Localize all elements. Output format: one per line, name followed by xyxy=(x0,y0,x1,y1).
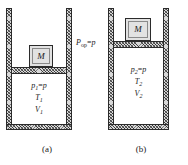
temperature-state-b: T2 xyxy=(113,76,164,88)
pressure-value-b: p xyxy=(142,65,146,74)
piston-a xyxy=(11,67,67,74)
gas-state-a: p1=p T1 V1 xyxy=(11,80,67,116)
volume-state-b: V2 xyxy=(113,88,164,100)
temperature-subscript-b: 2 xyxy=(139,81,142,87)
weight-label-a: M xyxy=(37,52,45,61)
volume-subscript-a: 1 xyxy=(40,109,43,115)
weight-block-b: M xyxy=(125,18,151,41)
pressure-value-a: p xyxy=(43,81,47,90)
pressure-subscript-b: 2 xyxy=(135,69,138,75)
temperature-subscript-a: 1 xyxy=(40,97,43,103)
pressure-subscript-a: 1 xyxy=(35,85,38,91)
piston-cylinder-figure: M p1=p T1 V1 (a) Pop=p xyxy=(0,0,188,165)
weight-block-a: M xyxy=(29,45,53,67)
pressure-state-a: p1=p xyxy=(11,80,67,92)
piston-b xyxy=(113,41,164,48)
pressure-state-b: p2=p xyxy=(113,64,164,76)
volume-subscript-b: 2 xyxy=(139,93,142,99)
external-pressure-subscript: op xyxy=(81,42,87,48)
panel-a: M p1=p T1 V1 (a) xyxy=(0,0,94,165)
gas-state-b: p2=p T2 V2 xyxy=(113,64,164,100)
temperature-state-a: T1 xyxy=(11,92,67,104)
weight-label-b: M xyxy=(134,25,142,34)
panel-b: M p2=p T2 V2 (b) xyxy=(94,0,188,165)
cylinder-floor-a xyxy=(6,124,72,130)
caption-b: (b) xyxy=(94,144,188,155)
external-pressure-annotation: Pop=p xyxy=(76,38,95,48)
cylinder-floor-b xyxy=(108,124,169,130)
caption-a: (a) xyxy=(0,144,94,155)
volume-state-a: V1 xyxy=(11,104,67,116)
